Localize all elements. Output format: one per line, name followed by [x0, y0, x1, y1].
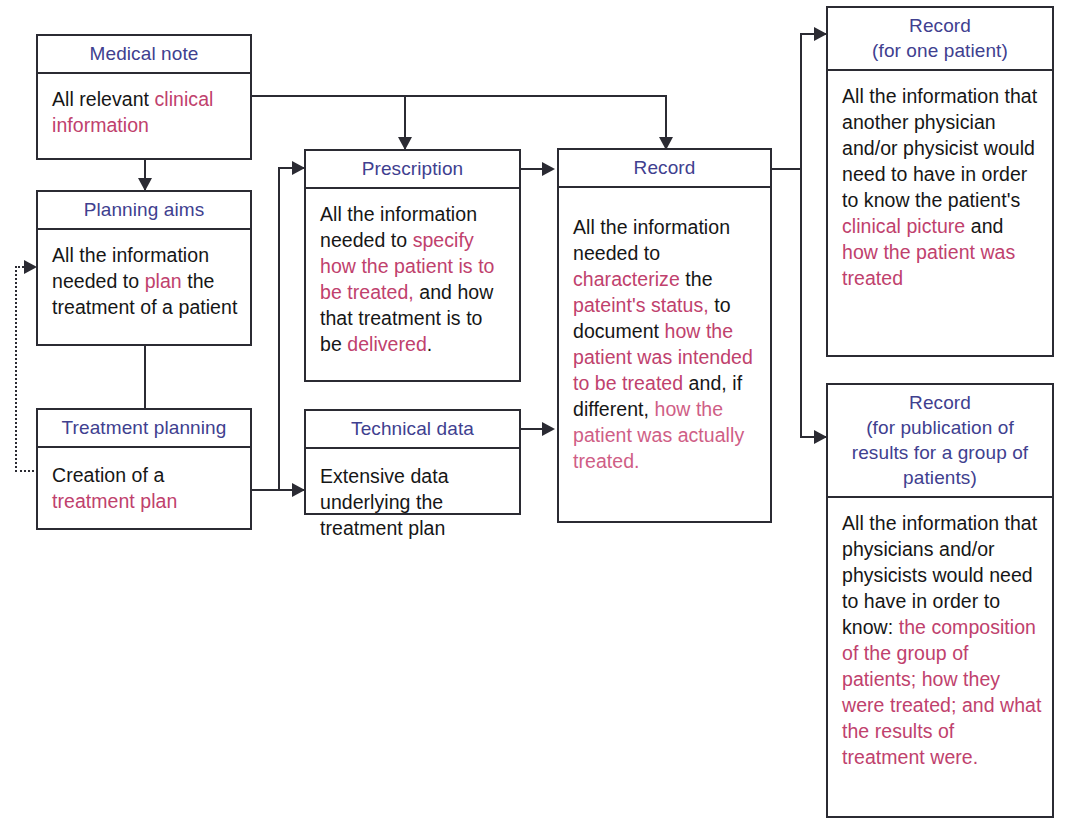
node-medical-note[interactable]: Medical note All relevant clinical infor…: [36, 34, 252, 160]
node-planning-aims-header: Planning aims: [38, 192, 250, 230]
node-prescription-title: Prescription: [362, 156, 464, 181]
node-record-group-header: Record (for publication of results for a…: [828, 385, 1052, 498]
node-record-one-patient-title: Record: [909, 13, 971, 38]
edge-medical-note-trunk-horizontal: [251, 95, 667, 97]
node-record-group-title: Record: [909, 390, 971, 415]
node-record-group-subtitle-2: results for a group of: [852, 440, 1028, 465]
text-highlight: characterize: [573, 268, 680, 290]
edge-treatment-planning-to-prescription-vertical: [278, 167, 280, 491]
node-record-one-patient-header: Record (for one patient): [828, 8, 1052, 71]
edge-planning-aims-to-treatment-planning-vertical: [144, 344, 146, 410]
node-record-header: Record: [559, 150, 770, 188]
node-technical-data[interactable]: Technical data Extensive data underlying…: [304, 409, 521, 515]
node-record-group[interactable]: Record (for publication of results for a…: [826, 383, 1054, 818]
text-highlight: delivered: [347, 333, 427, 355]
edge-record-right-stub: [770, 168, 802, 170]
node-planning-aims-body: All the information needed to plan the t…: [38, 230, 250, 344]
node-technical-data-header: Technical data: [306, 411, 519, 449]
text-plain: All relevant: [52, 88, 155, 110]
edge-feedback-vertical: [15, 266, 17, 472]
text-plain: Extensive data underlying the treatment …: [320, 465, 449, 539]
edge-prescription-to-record-arrowhead: [542, 162, 555, 176]
node-record-group-subtitle-3: patients): [903, 465, 977, 490]
node-technical-data-body: Extensive data underlying the treatment …: [306, 449, 519, 551]
node-record-one-patient-subtitle: (for one patient): [872, 38, 1008, 63]
node-record-one-patient[interactable]: Record (for one patient) All the informa…: [826, 6, 1054, 357]
node-treatment-planning-header: Treatment planning: [38, 410, 250, 448]
node-record-body: All the information needed to characteri…: [559, 188, 770, 521]
text-highlight: plan: [145, 270, 182, 292]
node-record-group-subtitle-1: (for publication of: [866, 415, 1014, 440]
text-plain: Creation of a: [52, 464, 164, 486]
node-record-group-body: All the information that physicians and/…: [828, 498, 1052, 816]
edge-record-split-vertical: [800, 33, 802, 437]
node-technical-data-title: Technical data: [351, 416, 474, 441]
text-plain: the: [680, 268, 713, 290]
node-medical-note-header: Medical note: [38, 36, 250, 74]
text-plain: All the information needed to: [573, 216, 730, 264]
node-record-one-patient-body: All the information that another physici…: [828, 71, 1052, 355]
text-highlight: clinical picture: [842, 215, 965, 237]
node-treatment-planning-title: Treatment planning: [62, 415, 227, 440]
text-highlight: the composition of the group of patients…: [842, 616, 1041, 768]
node-planning-aims-title: Planning aims: [84, 197, 205, 222]
text-highlight: how the patient was treated: [842, 241, 1015, 289]
node-prescription-header: Prescription: [306, 151, 519, 189]
diagram-canvas: Medical note All relevant clinical infor…: [0, 0, 1074, 835]
node-prescription-body: All the information needed to specify ho…: [306, 189, 519, 380]
node-prescription[interactable]: Prescription All the information needed …: [304, 149, 521, 382]
node-planning-aims[interactable]: Planning aims All the information needed…: [36, 190, 252, 346]
text-highlight: treatment plan: [52, 490, 177, 512]
node-record-title: Record: [634, 155, 696, 180]
text-plain: .: [427, 333, 432, 355]
node-treatment-planning[interactable]: Treatment planning Creation of a treatme…: [36, 408, 252, 530]
text-plain: and: [965, 215, 1003, 237]
edge-technical-data-to-record-arrowhead: [542, 422, 555, 436]
text-highlight: pateint's status,: [573, 294, 709, 316]
node-medical-note-title: Medical note: [90, 41, 199, 66]
node-record[interactable]: Record All the information needed to cha…: [557, 148, 772, 523]
node-treatment-planning-body: Creation of a treatment plan: [38, 448, 250, 528]
node-medical-note-body: All relevant clinical information: [38, 74, 250, 158]
text-plain: All the information that another physici…: [842, 85, 1037, 211]
